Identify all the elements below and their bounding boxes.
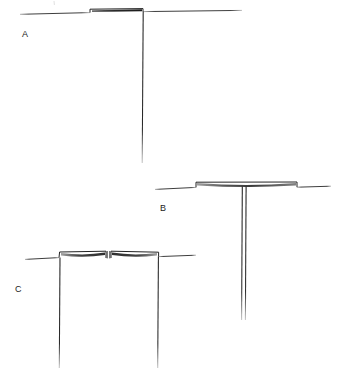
panel-b-baseline-right: [297, 186, 331, 187]
panel-b-baseline-left: [155, 187, 196, 189]
panel-a-baseline-right: [143, 10, 242, 11]
panel-a-baseline-left: [20, 13, 90, 15]
panel-c-baseline-right: [159, 255, 196, 256]
panel-b-vertical-wall-left: [242, 187, 243, 320]
panel-b-vertical-wall-right: [245, 187, 246, 320]
panel-c-center-notch: [107, 251, 110, 258]
panel-c-drawing: [25, 251, 196, 368]
panel-c-raised-block-right-face: [112, 253, 157, 257]
panel-b-raised-block-face: [197, 183, 296, 187]
panel-c-raised-block-left-face: [61, 253, 105, 257]
panel-c-vertical-wall-left: [59, 258, 60, 368]
panel-c-vertical-wall-right: [158, 257, 159, 368]
technical-figure: A B C: [0, 0, 340, 382]
panel-a-label: A: [22, 30, 28, 39]
panel-c-label: C: [15, 285, 22, 294]
figure-canvas: [0, 0, 340, 382]
panel-a-vertical-wall: [142, 12, 143, 163]
panel-c-baseline-left: [25, 258, 59, 260]
panel-b-drawing: [155, 182, 331, 320]
panel-a-drawing: [20, 1, 242, 163]
panel-a-raised-block-face: [92, 9, 142, 12]
panel-b-label: B: [160, 204, 166, 213]
